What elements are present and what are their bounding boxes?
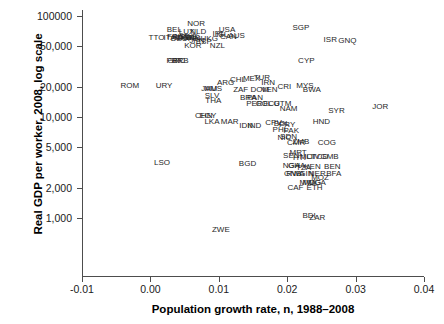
data-point-label: ZAR [309,214,325,222]
data-point-label: ROM [121,82,140,90]
data-point-label: NZL [210,42,225,50]
data-point-label: CYP [298,57,314,65]
data-point-label: URY [156,82,173,90]
data-point-label: AUS [228,32,244,40]
data-point-label: VEN [261,86,277,94]
data-point-label: CAF [287,184,303,192]
data-point-label: CRI [278,83,292,91]
x-tick-label: 0.01 [189,283,249,295]
x-tick-label: 0.02 [257,283,317,295]
x-axis-title: Population growth rate, n, 1988–2008 [82,303,424,315]
x-tick-mark [219,277,220,282]
data-point-label: TTO [149,34,165,42]
y-tick-label: 100000 [12,10,72,22]
data-point-label: BWA [303,86,321,94]
data-point-label: BRB [172,57,188,65]
data-point-label: CMR [287,139,305,147]
y-tick-mark [77,147,82,148]
data-point-label: SYR [328,107,344,115]
data-point-label: COG [318,139,336,147]
x-tick-mark [150,277,151,282]
y-axis-line [82,10,83,276]
scatter-plot-figure: 10000050,00020,00010,0005,0002,0001,000 … [0,0,444,324]
data-point-label: KOR [184,42,201,50]
data-point-label: LSO [154,159,170,167]
x-tick-mark [82,277,83,282]
data-point-label: BGD [239,160,256,168]
x-tick-mark [424,277,425,282]
y-tick-mark [77,188,82,189]
y-tick-mark [77,117,82,118]
data-point-label: THA [205,97,221,105]
x-tick-label: -0.01 [52,283,112,295]
x-axis-line [82,276,424,277]
data-point-label: GMB [320,153,338,161]
y-tick-mark [77,218,82,219]
y-tick-mark [77,46,82,47]
x-tick-label: 0.00 [120,283,180,295]
data-point-label: LKA [204,118,219,126]
data-point-label: NAM [280,105,298,113]
data-point-label: ZWE [212,226,230,234]
y-tick-mark [77,87,82,88]
data-point-label: MAR [221,118,239,126]
x-tick-label: 0.04 [394,283,444,295]
x-tick-mark [356,277,357,282]
data-point-label: ISR [324,36,337,44]
x-tick-mark [287,277,288,282]
data-point-label: SGP [292,24,309,32]
y-tick-mark [77,16,82,17]
data-point-label: JOR [372,103,388,111]
x-tick-label: 0.03 [326,283,386,295]
data-point-label: RWA [286,170,304,178]
data-point-label: IND [247,122,261,130]
data-point-label: GNQ [338,37,356,45]
y-axis-title: Real GDP per worker, 2008, log scale [32,24,44,244]
data-point-label: HND [313,118,330,126]
data-point-label: ETH [307,184,323,192]
